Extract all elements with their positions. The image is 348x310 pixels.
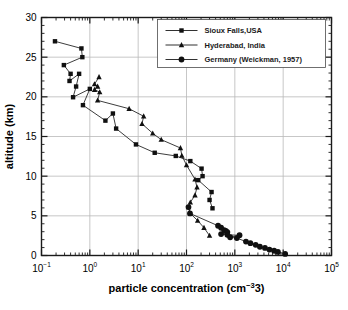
legend-label: Germany (Weickman, 1957) (205, 55, 303, 64)
chart-figure: 10−1100101102103104105 051015202530 part… (0, 0, 348, 310)
y-axis-title: altitude (km) (3, 103, 15, 169)
particle-concentration-chart: 10−1100101102103104105 051015202530 part… (0, 0, 348, 310)
y-axis-title-text: altitude (km) (3, 103, 15, 169)
x-axis-title: particle concentration (cm−33) (109, 281, 265, 294)
legend-label: Hyderabad, India (205, 41, 266, 50)
y-tick-label: 5 (31, 210, 37, 221)
y-tick-label: 30 (25, 12, 37, 23)
y-tick-label: 25 (25, 52, 37, 63)
y-tick-label: 15 (25, 131, 37, 142)
y-tick-label: 20 (25, 91, 37, 102)
y-tick-label: 0 (31, 250, 37, 261)
legend-label: Sioux Falls,USA (205, 26, 263, 35)
chart-legend: Sioux Falls,USAHyderabad, IndiaGermany (… (158, 20, 326, 68)
y-tick-label: 10 (25, 171, 37, 182)
